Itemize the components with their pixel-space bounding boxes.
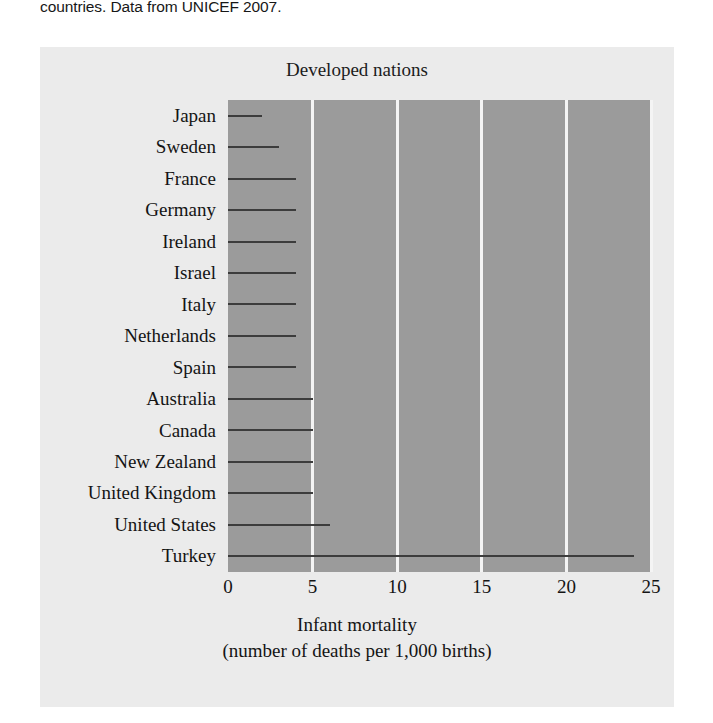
bar-series (228, 100, 651, 572)
x-axis-title-line-1: Infant mortality (40, 612, 674, 638)
bar-row (228, 383, 651, 414)
bar-row (228, 289, 651, 320)
y-label-netherlands: Netherlands (40, 320, 223, 351)
y-label-turkey: Turkey (40, 540, 223, 571)
bar-row (228, 540, 651, 571)
figure-card: Developed nations JapanSwedenFranceGerma… (40, 47, 674, 707)
y-label-germany: Germany (40, 194, 223, 225)
caption-text: countries. Data from UNICEF 2007. (40, 0, 281, 15)
y-label-sweden: Sweden (40, 131, 223, 162)
x-tick-10: 10 (388, 576, 407, 598)
plot-area (228, 100, 651, 572)
bar-ireland (228, 241, 296, 243)
bar-sweden (228, 146, 279, 148)
bar-new-zealand (228, 461, 313, 463)
y-label-italy: Italy (40, 289, 223, 320)
y-label-israel: Israel (40, 257, 223, 288)
bar-canada (228, 429, 313, 431)
y-label-united-states: United States (40, 509, 223, 540)
bar-row (228, 477, 651, 508)
bar-row (228, 163, 651, 194)
x-tick-25: 25 (642, 576, 661, 598)
bar-row (228, 131, 651, 162)
x-axis-tick-labels: 0510152025 (228, 572, 651, 602)
bar-germany (228, 209, 296, 211)
x-axis-title-line-2: (number of deaths per 1,000 births) (40, 638, 674, 664)
y-label-new-zealand: New Zealand (40, 446, 223, 477)
x-tick-15: 15 (472, 576, 491, 598)
bar-italy (228, 303, 296, 305)
bar-spain (228, 366, 296, 368)
y-label-japan: Japan (40, 100, 223, 131)
y-label-france: France (40, 163, 223, 194)
bar-row (228, 509, 651, 540)
y-label-canada: Canada (40, 415, 223, 446)
y-label-ireland: Ireland (40, 226, 223, 257)
bar-australia (228, 398, 313, 400)
bar-france (228, 178, 296, 180)
bar-row (228, 194, 651, 225)
x-tick-0: 0 (223, 576, 233, 598)
bar-row (228, 352, 651, 383)
y-label-spain: Spain (40, 352, 223, 383)
bar-row (228, 257, 651, 288)
bar-japan (228, 115, 262, 117)
bar-netherlands (228, 335, 296, 337)
x-tick-5: 5 (308, 576, 318, 598)
x-tick-20: 20 (557, 576, 576, 598)
bar-row (228, 446, 651, 477)
bar-united-kingdom (228, 492, 313, 494)
y-axis-category-labels: JapanSwedenFranceGermanyIrelandIsraelIta… (40, 100, 223, 572)
y-label-australia: Australia (40, 383, 223, 414)
bar-row (228, 320, 651, 351)
bar-israel (228, 272, 296, 274)
figure-caption: countries. Data from UNICEF 2007. (40, 0, 680, 17)
bar-turkey (228, 555, 634, 557)
chart-title: Developed nations (40, 59, 674, 81)
bar-row (228, 415, 651, 446)
y-label-united-kingdom: United Kingdom (40, 477, 223, 508)
bar-united-states (228, 524, 330, 526)
x-axis-title: Infant mortality (number of deaths per 1… (40, 612, 674, 664)
bar-row (228, 100, 651, 131)
bar-row (228, 226, 651, 257)
